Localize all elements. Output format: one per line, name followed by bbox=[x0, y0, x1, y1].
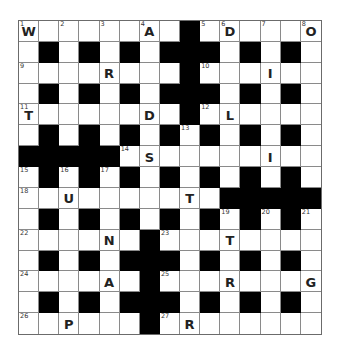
grid-cell[interactable] bbox=[180, 209, 200, 230]
grid-cell[interactable] bbox=[120, 188, 140, 209]
grid-cell[interactable]: 20 bbox=[261, 209, 281, 230]
grid-cell[interactable]: 17 bbox=[100, 167, 120, 188]
grid-cell[interactable] bbox=[180, 146, 200, 167]
grid-cell[interactable] bbox=[220, 84, 240, 105]
grid-cell[interactable] bbox=[59, 42, 79, 63]
grid-cell[interactable] bbox=[261, 104, 281, 125]
grid-cell[interactable] bbox=[220, 292, 240, 313]
grid-cell[interactable] bbox=[100, 292, 120, 313]
grid-cell[interactable] bbox=[200, 271, 220, 292]
grid-cell[interactable]: 7 bbox=[261, 21, 281, 42]
grid-cell[interactable] bbox=[220, 251, 240, 272]
grid-cell[interactable]: 23 bbox=[160, 230, 180, 251]
grid-cell[interactable] bbox=[281, 21, 301, 42]
grid-cell[interactable]: 12 bbox=[200, 104, 220, 125]
grid-cell[interactable] bbox=[281, 271, 301, 292]
grid-cell[interactable] bbox=[301, 167, 321, 188]
grid-cell[interactable] bbox=[220, 42, 240, 63]
grid-cell[interactable]: S bbox=[140, 146, 160, 167]
grid-cell[interactable] bbox=[160, 146, 180, 167]
grid-cell[interactable]: R bbox=[100, 63, 120, 84]
grid-cell[interactable] bbox=[59, 230, 79, 251]
grid-cell[interactable] bbox=[59, 84, 79, 105]
grid-cell[interactable] bbox=[140, 63, 160, 84]
grid-cell[interactable] bbox=[200, 230, 220, 251]
grid-cell[interactable] bbox=[180, 230, 200, 251]
grid-cell[interactable] bbox=[79, 230, 99, 251]
grid-cell[interactable] bbox=[59, 104, 79, 125]
grid-cell[interactable]: 13 bbox=[180, 125, 200, 146]
grid-cell[interactable] bbox=[240, 146, 260, 167]
grid-cell[interactable]: 9 bbox=[19, 63, 39, 84]
grid-cell[interactable]: T bbox=[180, 188, 200, 209]
grid-cell[interactable] bbox=[100, 104, 120, 125]
grid-cell[interactable] bbox=[120, 230, 140, 251]
grid-cell[interactable]: 3 bbox=[100, 21, 120, 42]
grid-cell[interactable] bbox=[261, 271, 281, 292]
grid-cell[interactable] bbox=[140, 209, 160, 230]
grid-cell[interactable]: 15 bbox=[19, 167, 39, 188]
grid-cell[interactable] bbox=[180, 271, 200, 292]
grid-cell[interactable]: 24 bbox=[19, 271, 39, 292]
grid-cell[interactable] bbox=[59, 63, 79, 84]
grid-cell[interactable] bbox=[140, 125, 160, 146]
grid-cell[interactable] bbox=[301, 125, 321, 146]
grid-cell[interactable] bbox=[240, 21, 260, 42]
grid-cell[interactable] bbox=[200, 188, 220, 209]
grid-cell[interactable] bbox=[301, 313, 321, 334]
grid-cell[interactable] bbox=[281, 313, 301, 334]
grid-cell[interactable] bbox=[180, 251, 200, 272]
grid-cell[interactable] bbox=[120, 271, 140, 292]
grid-cell[interactable]: 8O bbox=[301, 21, 321, 42]
grid-cell[interactable] bbox=[240, 271, 260, 292]
grid-cell[interactable]: 16 bbox=[59, 167, 79, 188]
grid-cell[interactable] bbox=[261, 313, 281, 334]
grid-cell[interactable]: 22 bbox=[19, 230, 39, 251]
grid-cell[interactable] bbox=[100, 42, 120, 63]
grid-cell[interactable] bbox=[200, 146, 220, 167]
grid-cell[interactable] bbox=[281, 146, 301, 167]
grid-cell[interactable]: G bbox=[301, 271, 321, 292]
grid-cell[interactable] bbox=[220, 313, 240, 334]
grid-cell[interactable]: U bbox=[59, 188, 79, 209]
grid-cell[interactable]: I bbox=[261, 146, 281, 167]
grid-cell[interactable] bbox=[220, 167, 240, 188]
grid-cell[interactable] bbox=[261, 230, 281, 251]
grid-cell[interactable] bbox=[120, 104, 140, 125]
grid-cell[interactable]: D bbox=[140, 104, 160, 125]
grid-cell[interactable] bbox=[79, 313, 99, 334]
grid-cell[interactable] bbox=[281, 104, 301, 125]
grid-cell[interactable] bbox=[160, 21, 180, 42]
grid-cell[interactable]: 18 bbox=[19, 188, 39, 209]
grid-cell[interactable] bbox=[59, 251, 79, 272]
grid-cell[interactable] bbox=[140, 84, 160, 105]
grid-cell[interactable]: 21 bbox=[301, 209, 321, 230]
grid-cell[interactable] bbox=[39, 188, 59, 209]
grid-cell[interactable] bbox=[220, 63, 240, 84]
grid-cell[interactable] bbox=[240, 63, 260, 84]
grid-cell[interactable] bbox=[140, 188, 160, 209]
grid-cell[interactable]: L bbox=[220, 104, 240, 125]
grid-cell[interactable] bbox=[100, 125, 120, 146]
grid-cell[interactable] bbox=[120, 313, 140, 334]
grid-cell[interactable] bbox=[39, 271, 59, 292]
grid-cell[interactable] bbox=[39, 63, 59, 84]
grid-cell[interactable] bbox=[261, 125, 281, 146]
grid-cell[interactable] bbox=[100, 209, 120, 230]
grid-cell[interactable] bbox=[281, 230, 301, 251]
grid-cell[interactable] bbox=[301, 84, 321, 105]
grid-cell[interactable]: R bbox=[220, 271, 240, 292]
grid-cell[interactable] bbox=[261, 84, 281, 105]
grid-cell[interactable] bbox=[19, 209, 39, 230]
grid-cell[interactable] bbox=[220, 146, 240, 167]
grid-cell[interactable] bbox=[39, 21, 59, 42]
grid-cell[interactable] bbox=[39, 230, 59, 251]
grid-cell[interactable] bbox=[59, 209, 79, 230]
grid-cell[interactable] bbox=[79, 21, 99, 42]
grid-cell[interactable] bbox=[220, 125, 240, 146]
grid-cell[interactable]: 19 bbox=[220, 209, 240, 230]
grid-cell[interactable]: R bbox=[180, 313, 200, 334]
grid-cell[interactable] bbox=[281, 63, 301, 84]
grid-cell[interactable]: 6D bbox=[220, 21, 240, 42]
grid-cell[interactable] bbox=[301, 146, 321, 167]
